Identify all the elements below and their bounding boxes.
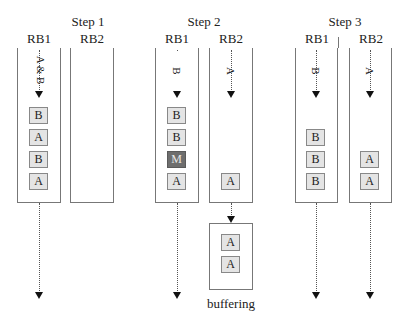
buffer-label: buffering xyxy=(201,296,261,312)
step-3-rb1-block: B xyxy=(306,173,325,190)
step-1-rb1-output-arrow-icon xyxy=(35,292,43,299)
step-1-title: Step 1 xyxy=(48,14,128,30)
step-3-rb2-arrow-icon xyxy=(366,91,374,98)
step-3-rb1-label: RB1 xyxy=(295,31,339,47)
step-1-rb1-block: A xyxy=(29,173,48,190)
step-1-rb1-label: RB1 xyxy=(17,31,61,47)
step-3-rb1-output-line xyxy=(316,203,317,293)
step-2-rb1-output-line xyxy=(177,203,178,293)
step-3-rb2-output-arrow-icon xyxy=(366,292,374,299)
step-3-rb1-arrow-icon xyxy=(312,91,320,98)
step-3-rb2-label: RB2 xyxy=(349,31,393,47)
step-3-rb1-output-arrow-icon xyxy=(312,292,320,299)
step-2-rb1-arrow-icon xyxy=(173,91,181,98)
step-2-rb2-block: A xyxy=(221,173,240,190)
step-2-rb1-label: RB1 xyxy=(155,31,199,47)
step-2-rb1-output-arrow-icon xyxy=(173,292,181,299)
step-2-rb2-label: RB2 xyxy=(209,31,253,47)
step-1-rb1-arrow-icon xyxy=(35,91,43,98)
step-2-rb1-block: B xyxy=(167,129,186,146)
step-2-rb2-arrow-icon xyxy=(227,91,235,98)
step-3-rb2-flow-label: A xyxy=(364,51,376,91)
step-1-rb2-label: RB2 xyxy=(70,31,114,47)
step-3-rb2-output-line xyxy=(370,203,371,293)
step-2-rb2-to-buffer-arrow-icon xyxy=(227,216,235,223)
step-2-rb2-to-buffer-line xyxy=(231,203,232,217)
step-3-rb2-block: A xyxy=(360,173,379,190)
step-2-rb1-flow-label: B xyxy=(171,51,183,91)
step-3-title: Step 3 xyxy=(305,14,385,30)
step-2-rb2-flow-label: A xyxy=(225,51,237,91)
step-3-rb2-block: A xyxy=(360,151,379,168)
step-1-rb1-block: B xyxy=(29,151,48,168)
buffer-block: A xyxy=(221,234,240,251)
step-1-rb1-flow-label: A & B xyxy=(35,50,47,90)
step-3-rb1-block: B xyxy=(306,129,325,146)
step-1-rb1-block: B xyxy=(29,107,48,124)
step-2-rb1-block: A xyxy=(167,173,186,190)
step-2-rb1-block: B xyxy=(167,107,186,124)
step-2-rb1-marked-block: M xyxy=(167,151,186,168)
step-1-rb1-block: A xyxy=(29,129,48,146)
step-2-title: Step 2 xyxy=(164,14,244,30)
step-3-rb1-flow-label: B xyxy=(310,51,322,91)
step-3-rb1-block: B xyxy=(306,151,325,168)
step-3-rb-divider xyxy=(338,37,339,48)
step-1-rb2-column xyxy=(70,48,114,203)
step-1-rb1-output-line xyxy=(39,203,40,293)
buffer-block: A xyxy=(221,256,240,273)
